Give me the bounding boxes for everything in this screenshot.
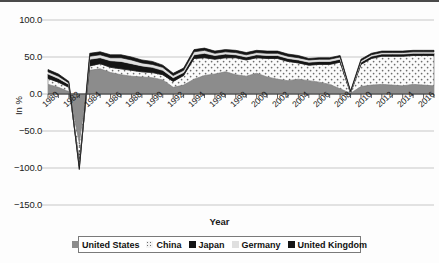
legend-swatch-icon — [189, 241, 196, 248]
legend-swatch-icon — [146, 241, 153, 248]
y-tick-label: −50.0 — [0, 125, 42, 136]
y-tick-label: 50.0 — [0, 51, 42, 62]
legend-label: United Kingdom — [298, 240, 368, 250]
legend-item[interactable]: Germany — [232, 240, 281, 250]
y-tick-label: 0.0 — [0, 88, 42, 99]
y-tick-label: −150.0 — [0, 199, 42, 210]
legend-label: Japan — [199, 240, 225, 250]
legend-label: United States — [82, 240, 140, 250]
chart-legend: United StatesChinaJapanGermanyUnited Kin… — [78, 236, 361, 253]
y-tick-label: −100.0 — [0, 162, 42, 173]
legend-item[interactable]: United States — [72, 240, 140, 250]
legend-item[interactable]: Japan — [189, 240, 225, 250]
chart-container: In % Year United StatesChinaJapanGermany… — [0, 0, 439, 263]
y-tick-label: 100.0 — [0, 14, 42, 25]
legend-swatch-icon — [288, 241, 295, 248]
legend-item[interactable]: United Kingdom — [288, 240, 368, 250]
legend-label: China — [156, 240, 181, 250]
legend-item[interactable]: China — [146, 240, 181, 250]
legend-swatch-icon — [232, 241, 239, 248]
legend-label: Germany — [242, 240, 281, 250]
legend-swatch-icon — [72, 241, 79, 248]
x-axis-title: Year — [0, 216, 439, 227]
